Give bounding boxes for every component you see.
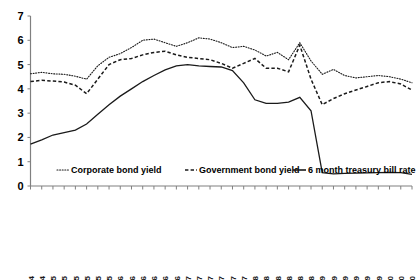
x-axis (31, 186, 413, 190)
y-axis: 01234567 (17, 10, 30, 192)
y-tick-label: 0 (17, 180, 23, 192)
x-tick-label: May 2006 (139, 275, 148, 280)
x-tick-label: May 2008 (274, 275, 283, 280)
legend-label: Government bond yield (199, 165, 300, 175)
y-tick-label: 5 (17, 59, 23, 71)
x-tick-label: November 2007 (240, 275, 249, 280)
y-tick-label: 3 (17, 107, 23, 119)
y-tick-label: 1 (17, 156, 23, 168)
x-tick-label: May 2007 (206, 275, 215, 280)
x-tick-label: November 2008 (307, 275, 316, 280)
x-tick-label: May 2009 (341, 275, 350, 280)
x-tick-label: July 2007 (217, 275, 226, 280)
x-tick-label: November 2004 (38, 275, 47, 280)
chart-canvas: 01234567 Corporate bond yieldGovernment … (0, 0, 417, 280)
x-tick-label: July 2008 (285, 275, 294, 280)
x-tick-label: November 2005 (105, 275, 114, 280)
x-tick-label: January 2006 (116, 275, 125, 280)
x-tick-label: May 2010 (408, 275, 417, 280)
x-tick-label: September 2005 (94, 275, 103, 280)
x-tick-label: March 2010 (397, 275, 406, 280)
y-tick-label: 2 (17, 131, 23, 143)
x-tick-label: May 2005 (72, 275, 81, 280)
legend-label: Corporate bond yield (71, 165, 162, 175)
x-tick-label: March 2009 (330, 275, 339, 280)
x-tick-label: January 2010 (386, 275, 395, 280)
x-tick-label: September 2004 (27, 275, 36, 280)
x-tick-label: January 2009 (318, 275, 327, 280)
x-tick-label: March 2008 (262, 275, 271, 280)
y-tick-label: 4 (17, 83, 24, 95)
x-tick-label: March 2007 (195, 275, 204, 280)
series-line-corporate-bond-yield (31, 38, 413, 83)
x-tick-label: November 2009 (375, 275, 384, 280)
y-tick-label: 6 (17, 34, 23, 46)
x-tick-label: September 2008 (296, 275, 305, 280)
series-line-government-bond-yield (31, 45, 413, 105)
x-tick-label: September 2006 (161, 275, 170, 280)
x-tick-label: January 2005 (49, 275, 58, 280)
x-tick-label: January 2007 (184, 275, 193, 280)
series-line-treasury-bill-rate (31, 65, 413, 175)
line-chart: 01234567 Corporate bond yieldGovernment … (0, 0, 417, 280)
series-lines (31, 38, 413, 174)
chart-legend: Corporate bond yieldGovernment bond yiel… (57, 165, 416, 175)
x-tick-label: September 2007 (229, 275, 238, 280)
legend-label: 6 month treasury bill rate (308, 165, 416, 175)
x-tick-label: July 2009 (352, 275, 361, 280)
x-tick-label: July 2006 (150, 275, 159, 280)
x-tick-label: March 2005 (60, 275, 69, 280)
x-tick-labels: September 2004November 2004January 2005M… (27, 275, 417, 280)
x-tick-label: July 2005 (83, 275, 92, 280)
x-tick-label: September 2009 (363, 275, 372, 280)
x-tick-label: January 2008 (251, 275, 260, 280)
x-tick-label: November 2006 (173, 275, 182, 280)
y-tick-label: 7 (17, 10, 23, 22)
x-tick-label: March 2006 (128, 275, 137, 280)
